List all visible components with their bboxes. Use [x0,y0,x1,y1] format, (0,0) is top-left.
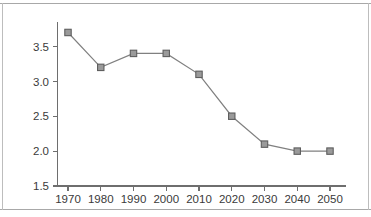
x-tick-label: 2020 [219,193,245,205]
data-point-marker [130,50,136,56]
data-point-marker [196,71,202,77]
x-tick-label: 2000 [153,193,179,205]
y-tick-label: 3.0 [33,76,49,88]
y-tick-label: 1.5 [33,180,49,192]
y-tick-label: 2.5 [33,110,49,122]
data-point-marker [98,64,104,70]
data-point-marker [294,148,300,154]
chart-figure: 1.52.02.53.03.5 197019801990200020102020… [0,0,371,217]
data-point-marker [229,113,235,119]
x-tick-label: 2040 [284,193,310,205]
data-point-marker [261,141,267,147]
x-tick-label: 1970 [55,193,81,205]
series-line-path [68,32,330,151]
x-tick-label: 2050 [317,193,343,205]
data-series [65,29,333,154]
x-axis-ticks [68,186,330,191]
data-point-marker [327,148,333,154]
data-point-marker [65,29,71,35]
y-tick-label: 3.5 [33,41,49,53]
x-tick-label: 1980 [88,193,114,205]
y-tick-label: 2.0 [33,145,49,157]
x-axis: 197019801990200020102020203020402050 [55,186,346,205]
x-tick-label: 2030 [252,193,278,205]
line-chart-plot: 1.52.02.53.03.5 197019801990200020102020… [0,0,371,217]
y-axis: 1.52.02.53.03.5 [33,22,58,192]
y-axis-tick-labels: 1.52.02.53.03.5 [33,41,49,193]
y-axis-ticks [53,46,58,186]
data-point-marker [163,50,169,56]
x-tick-label: 2010 [186,193,212,205]
x-tick-label: 1990 [121,193,147,205]
series-markers [65,29,333,154]
x-axis-tick-labels: 197019801990200020102020203020402050 [55,193,343,205]
